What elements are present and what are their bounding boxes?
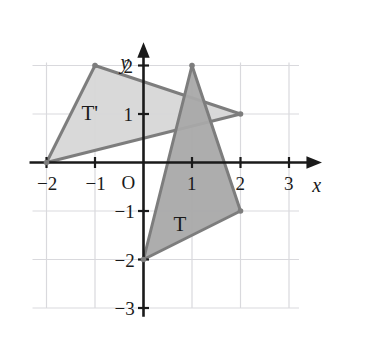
x-axis-arrow-icon — [306, 156, 322, 168]
vertex-marker — [141, 257, 147, 263]
vertex-marker — [238, 111, 244, 117]
x-tick-label-4: 3 — [284, 174, 294, 193]
y-tick-label-3: −2 — [115, 251, 135, 270]
y-axis-label: y — [121, 52, 130, 72]
shape-label-t-prime: T' — [81, 103, 98, 124]
x-tick-label-1: −1 — [86, 174, 106, 193]
vertex-marker — [92, 63, 98, 69]
origin-label: O — [122, 173, 136, 192]
y-axis-arrow-icon — [137, 42, 149, 58]
x-tick-label-2: 1 — [187, 174, 197, 193]
y-tick-label-2: −1 — [115, 202, 135, 221]
x-tick-label-3: 2 — [236, 174, 246, 193]
y-tick-label-4: −3 — [115, 299, 135, 318]
shape-label-t: T — [174, 214, 187, 235]
x-tick-label-0: −2 — [37, 174, 57, 193]
coordinate-grid-figure: −2−112321−1−2−3OxyTT' — [0, 0, 371, 362]
vertex-marker — [189, 63, 195, 69]
vertex-marker — [238, 208, 244, 214]
vertex-marker — [44, 160, 50, 166]
y-tick-label-1: 1 — [124, 105, 134, 124]
x-axis-label: x — [312, 175, 321, 195]
